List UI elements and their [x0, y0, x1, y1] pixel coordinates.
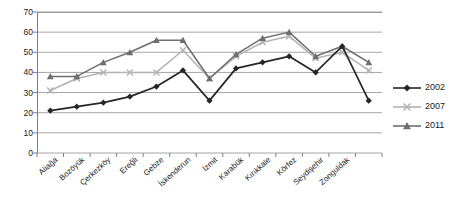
data-point-marker [365, 59, 372, 65]
y-axis-tick-labels: 010203040506070 [0, 12, 33, 153]
series-line [50, 32, 368, 78]
y-axis-tick-label: 60 [1, 28, 33, 37]
legend-marker-icon [392, 120, 422, 132]
y-axis-tick-label: 50 [1, 48, 33, 57]
x-axis-tick-label: Gebze [143, 156, 166, 178]
y-axis-tick-label: 10 [1, 129, 33, 138]
x-axis-tick-label: Ereğli [119, 156, 140, 176]
x-axis-tick-label: Karabük [218, 156, 245, 182]
x-axis-tick-labels: AliağaBozöyükÇerkezköyEreğliGebzeİskende… [37, 153, 382, 207]
legend-item[interactable]: 2002 [392, 78, 464, 97]
x-axis-tick-label: Kırıkkale [243, 156, 271, 183]
y-axis-tick-label: 30 [1, 88, 33, 97]
data-point-marker [100, 100, 106, 106]
data-point-marker [47, 108, 53, 114]
legend-label: 2007 [425, 102, 445, 111]
data-point-marker [180, 47, 186, 53]
line-chart: 010203040506070 AliağaBozöyükÇerkezköyEr… [0, 0, 467, 207]
series-line [50, 36, 368, 90]
x-axis-tick-label: Aliağa [38, 156, 60, 177]
legend-item[interactable]: 2011 [392, 116, 464, 135]
data-point-marker [403, 84, 410, 91]
data-series-layer [37, 12, 382, 153]
chart-legend: 200220072011 [392, 78, 464, 135]
x-axis-tick-label: Körfez [276, 156, 299, 177]
data-point-marker [127, 94, 133, 100]
data-point-marker [74, 104, 80, 110]
plot-area [37, 12, 382, 153]
data-point-marker [47, 88, 53, 94]
legend-marker-icon [392, 101, 422, 113]
data-point-marker [259, 59, 265, 65]
y-axis-tick-label: 70 [1, 8, 33, 17]
y-axis-tick-label: 0 [1, 149, 33, 158]
legend-label: 2002 [425, 83, 445, 92]
legend-label: 2011 [425, 121, 444, 130]
data-point-marker [126, 49, 133, 55]
x-axis-tick-label: İzmit [201, 156, 219, 173]
data-point-marker [366, 67, 372, 73]
y-axis-tick-label: 40 [1, 68, 33, 77]
data-point-marker [286, 29, 293, 35]
series-2007 [47, 33, 371, 93]
y-axis-tick-label: 20 [1, 108, 33, 117]
legend-marker-icon [392, 82, 422, 94]
legend-item[interactable]: 2007 [392, 97, 464, 116]
data-point-marker [366, 98, 372, 104]
